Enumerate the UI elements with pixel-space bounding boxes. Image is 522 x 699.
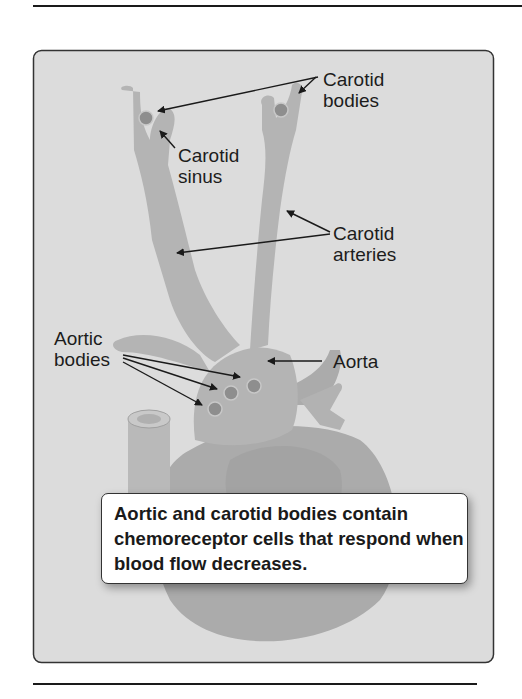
label-carotid-bodies: Carotid bodies [323, 69, 384, 111]
aortic-body-1 [247, 379, 261, 393]
aortic-body-3 [208, 402, 222, 416]
carotid-body-right [274, 103, 288, 117]
callout-box: Aortic and carotid bodies contain chemor… [101, 493, 468, 584]
bottom-rule [33, 683, 477, 685]
label-aortic-bodies: Aortic bodies [54, 328, 110, 370]
label-carotid-sinus: Carotid sinus [178, 145, 239, 187]
carotid-body-left [139, 111, 153, 125]
label-carotid-arteries: Carotid arteries [333, 223, 396, 265]
label-aorta: Aorta [333, 351, 378, 372]
aortic-body-2 [224, 386, 238, 400]
